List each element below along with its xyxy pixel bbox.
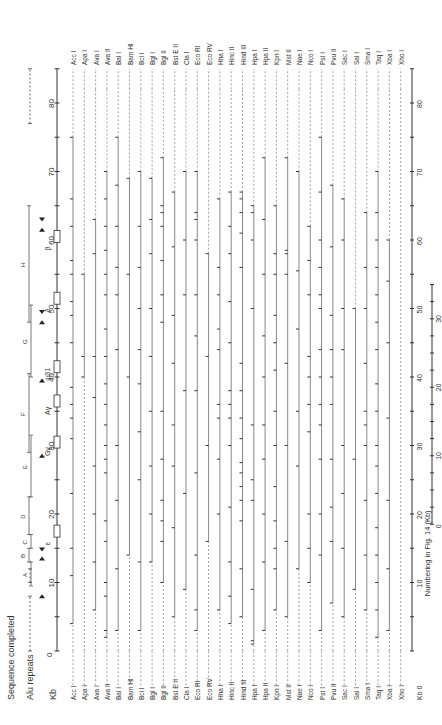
legend-alu-repeats: Alu repeats [25, 654, 35, 700]
right-axis-kb-label: Kb 0 [416, 685, 423, 700]
enzyme-label-bottom: Pst I [319, 687, 326, 700]
enzyme-label-bottom: Xba I [386, 685, 393, 700]
enzyme-track-hinc-ii: Hinc IIHinc II [228, 46, 235, 700]
right-axis-tick-label: 30 [416, 443, 423, 451]
enzyme-label-top: Bcl I [138, 52, 145, 65]
kb-axis: 1020304050607080εGγAγψβ1δβ [44, 69, 60, 651]
secondary-axis-tick-label: 0 [435, 524, 442, 528]
axis-tick-label: 10 [47, 578, 56, 587]
segment-label: G [22, 339, 28, 344]
enzyme-track-bcl-i: Bcl IBcl I [138, 52, 145, 700]
legend-sequence-completed: Sequence completed [6, 615, 16, 700]
enzyme-label-top: Pvu II [330, 48, 337, 65]
enzyme-label-bottom: Hpa I [251, 684, 259, 700]
enzyme-label-bottom: Sac I [341, 685, 348, 700]
axis-tick-label: 80 [47, 99, 56, 108]
restriction-map-svg: Sequence completedAlu repeatsKb0 ABCDEFG… [0, 0, 442, 725]
alu-arrow-icon [39, 217, 45, 221]
enzyme-track-sal-i: Sal ISal I [353, 52, 360, 700]
enzyme-label-top: Acc I [70, 50, 77, 65]
secondary-axis-tick-label: 20 [435, 383, 442, 391]
enzyme-track-hind-iii: Hind IIIHind III [240, 44, 247, 700]
enzyme-label-top: Cla I [183, 51, 190, 65]
segment-label: C [22, 539, 28, 544]
enzyme-label-bottom: Mst II [285, 684, 292, 700]
enzyme-label-top: Bgl I [149, 52, 157, 65]
gene-label: ε [44, 542, 51, 545]
enzyme-track-apa-i: Apa IApa I [81, 50, 89, 700]
gene-box [54, 292, 60, 304]
enzyme-label-top: Apa I [81, 50, 89, 65]
right-axis-tick-label: 40 [416, 374, 423, 382]
right-axis-tick-label: 20 [416, 511, 423, 519]
enzyme-label-bottom: Eco RV [206, 677, 213, 700]
enzyme-label-bottom: Nae I [296, 684, 303, 700]
enzyme-label-bottom: Ava I [93, 685, 100, 700]
enzyme-label-top: Hpa I [251, 49, 259, 65]
right-axis-tick-label: 50 [416, 306, 423, 314]
enzyme-label-bottom: Sal I [353, 687, 360, 700]
gene-box [54, 361, 60, 373]
enzyme-track-kpn-i: Kpn IKpn I [273, 50, 281, 700]
enzyme-label-top: Hha I [217, 49, 224, 65]
gene-label: ψβ1 [44, 368, 52, 381]
segment-label: D [20, 514, 26, 519]
enzyme-track-hha-i: Hha IHha I [217, 49, 224, 700]
enzyme-label-top: Sac I [341, 50, 348, 65]
secondary-axis-tick-label: 10 [435, 452, 442, 460]
alu-arrow-icon [39, 548, 45, 552]
enzyme-label-top: Bst E II [172, 44, 179, 65]
enzyme-label-top: Bal I [115, 52, 122, 65]
gene-box [54, 436, 60, 448]
enzyme-label-bottom: Pvu II [330, 683, 337, 700]
secondary-axis: 1020304050607080Kb 00102030Numbering in … [410, 69, 442, 700]
enzyme-label-bottom: Bcl I [138, 687, 145, 700]
alu-arrow-icon [39, 228, 45, 232]
enzyme-track-eco-rv: Eco RVEco RV [206, 42, 213, 700]
alu-arrow-icon [39, 594, 45, 598]
enzyme-label-bottom: Hinc II [228, 681, 235, 700]
enzyme-label-top: Eco RI [194, 45, 201, 65]
enzyme-label-bottom: Kpn I [273, 685, 281, 700]
enzyme-track-sac-i: Sac ISac I [341, 50, 348, 700]
secondary-axis-tick-label: 30 [435, 315, 442, 323]
enzyme-track-eco-ri: Eco RIEco RI [194, 45, 201, 700]
enzyme-label-top: Hind III [240, 44, 247, 65]
gene-box [54, 525, 60, 537]
enzyme-track-pvu-ii: Pvu IIPvu II [330, 48, 337, 700]
enzyme-track-sma-i: Sma ISma I [364, 48, 371, 700]
enzyme-label-bottom: Bgl II [160, 685, 168, 700]
enzyme-label-bottom: Acc I [70, 685, 77, 700]
enzyme-label-bottom: Hha I [217, 684, 224, 700]
enzyme-label-top: Nco I [307, 50, 314, 65]
enzyme-label-bottom: Hpa II [262, 682, 270, 700]
enzyme-label-bottom: Nco I [307, 685, 314, 700]
right-axis-tick-label: 70 [416, 169, 423, 177]
enzyme-label-top: Bam HI [127, 43, 134, 65]
alu-arrow-icon [39, 557, 45, 561]
enzyme-label-top: Sal I [353, 52, 360, 65]
enzyme-label-top: Ava I [93, 50, 100, 65]
enzyme-label-top: Hpa II [262, 47, 270, 65]
gene-box [54, 231, 60, 243]
enzyme-label-top: Ava II [104, 48, 111, 65]
enzyme-track-bgl-i: Bgl IBgl I [149, 52, 157, 700]
enzyme-track-pst-i: Pst IPst I [319, 52, 326, 700]
legend: Sequence completedAlu repeatsKb0 [6, 69, 58, 700]
enzyme-label-bottom: Bal I [115, 687, 122, 700]
enzyme-label-bottom: Sma I [364, 683, 371, 700]
gene-label: δ [44, 308, 51, 312]
enzyme-track-nco-i: Nco INco I [307, 50, 314, 700]
enzyme-track-xba-i: Xba IXba I [386, 50, 393, 700]
segment-label: E [22, 465, 28, 469]
enzyme-track-taq-i: Taq ITaq I [375, 51, 383, 700]
enzyme-label-top: Mst II [285, 49, 292, 65]
enzyme-track-acc-i: Acc IAcc I [70, 50, 77, 700]
enzyme-track-hpa-i: Hpa IHpa I [251, 49, 259, 700]
segment-label: B [20, 554, 26, 558]
enzyme-label-bottom: Eco RI [194, 680, 201, 700]
axis-kb-label: Kb [48, 689, 58, 700]
enzyme-track-bgl-ii: Bgl IIBgl II [160, 50, 168, 700]
enzyme-label-bottom: Bgl I [149, 687, 157, 700]
alu-arrow-icon [39, 320, 45, 324]
